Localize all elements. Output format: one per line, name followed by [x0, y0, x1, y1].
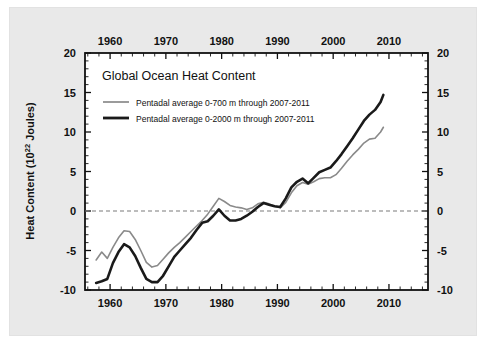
right-y-tick-label: 10 [437, 126, 449, 138]
y-axis-title-exponent: 22 [23, 144, 32, 152]
left-y-tick-label: -10 [60, 284, 76, 296]
top-x-tick-label: 1960 [98, 35, 122, 47]
figure-card: 196019701980199020002010 196019701980199… [10, 8, 476, 335]
top-axis-tick-labels: 196019701980199020002010 [98, 35, 401, 47]
y-axis-title: Heat Content (1022 Joules) [23, 102, 36, 240]
bottom-x-tick-label: 1980 [209, 297, 233, 309]
legend-label-0-2000m: Pentadal average 0-2000 m through 2007-2… [136, 114, 315, 124]
bottom-axis-tick-labels: 196019701980199020002010 [98, 297, 401, 309]
bottom-x-tick-label: 2000 [321, 297, 345, 309]
bottom-x-tick-label: 1970 [154, 297, 178, 309]
plot-area-background [85, 53, 428, 290]
bottom-x-tick-label: 2010 [377, 297, 401, 309]
right-y-tick-label: 15 [437, 87, 449, 99]
y-axis-title-tail: Joules) [24, 102, 36, 144]
left-y-tick-label: -5 [66, 245, 76, 257]
left-y-tick-label: 15 [64, 87, 76, 99]
right-y-tick-label: 20 [437, 47, 449, 59]
left-y-tick-label: 5 [70, 166, 76, 178]
left-y-tick-label: 10 [64, 126, 76, 138]
bottom-x-tick-label: 1990 [265, 297, 289, 309]
left-y-tick-label: 0 [70, 205, 76, 217]
right-y-tick-label: 5 [437, 166, 443, 178]
right-y-tick-label: -10 [437, 284, 453, 296]
right-axis-tick-labels: -10-505101520 [437, 47, 453, 296]
y-axis-title-main: Heat Content (10 [24, 152, 36, 239]
top-x-tick-label: 1990 [265, 35, 289, 47]
left-axis-tick-labels: -10-505101520 [60, 47, 76, 296]
right-y-tick-label: -5 [437, 245, 447, 257]
top-x-tick-label: 1970 [154, 35, 178, 47]
left-y-tick-label: 20 [64, 47, 76, 59]
top-x-tick-label: 2000 [321, 35, 345, 47]
bottom-x-tick-label: 1960 [98, 297, 122, 309]
right-y-tick-label: 0 [437, 205, 443, 217]
top-x-tick-label: 1980 [209, 35, 233, 47]
chart-title: Global Ocean Heat Content [102, 69, 256, 83]
legend-label-0-700m: Pentadal average 0-700 m through 2007-20… [136, 98, 310, 108]
top-x-tick-label: 2010 [377, 35, 401, 47]
ocean-heat-content-chart: 196019701980199020002010 196019701980199… [10, 8, 476, 335]
